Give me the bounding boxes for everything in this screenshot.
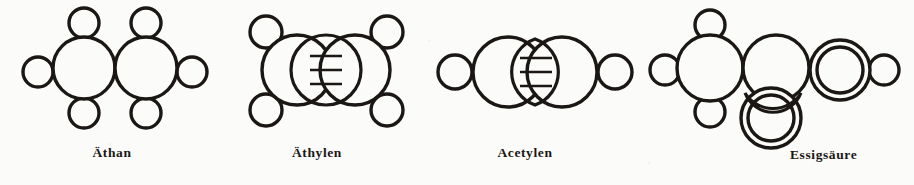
carbon-atom: [115, 37, 177, 99]
carbon-atom: [677, 35, 743, 101]
hydrogen-atom: [438, 55, 472, 89]
hydrogen-atom: [69, 8, 99, 38]
hydrogen-atom: [869, 55, 899, 85]
panel-caption-aethylen: Äthylen: [222, 145, 412, 161]
hydrogen-atom: [131, 8, 161, 38]
panel-caption-aethan: Äthan: [0, 145, 227, 161]
panel-aethan: Äthan: [0, 0, 230, 185]
hydrogen-atom: [177, 57, 207, 87]
hydrogen-atom: [131, 98, 161, 128]
carbon-atom: [53, 37, 115, 99]
hydrogen-atom: [23, 57, 53, 87]
acetylen-diagram: [420, 0, 640, 140]
molecular-models-figure: Äthan: [0, 0, 914, 185]
panel-aethylen: Äthylen: [230, 0, 420, 185]
hydrogen-atom: [69, 98, 99, 128]
essigsaeure-diagram: [640, 0, 914, 152]
panel-essigsaeure: Essigsäure: [640, 0, 914, 185]
oxygen-atom-hydroxyl: [810, 40, 870, 100]
panel-caption-essigsaeure: Essigsäure: [790, 147, 857, 163]
hydrogen-atom: [598, 55, 632, 89]
oxygen-atom-carbonyl: [741, 88, 801, 148]
panel-acetylen: Acetylen: [420, 0, 640, 185]
panel-caption-acetylen: Acetylen: [415, 145, 635, 161]
aethylen-diagram: [230, 0, 420, 140]
aethan-diagram: [0, 0, 230, 140]
